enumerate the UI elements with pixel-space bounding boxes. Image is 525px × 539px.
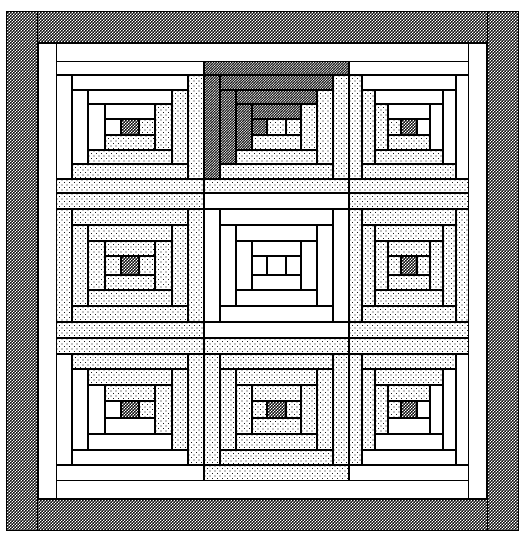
block-bottom-left-log-top-1 (72, 354, 188, 370)
block-bottom-right-log-top-2 (375, 369, 443, 385)
block-center-log-bottom-1 (220, 306, 333, 322)
block-center-log-bottom-3 (252, 275, 302, 291)
block-top-right-log-left-3 (388, 119, 401, 136)
border-binding-top (6, 11, 519, 43)
block-bottom-right-log-right-2 (430, 385, 443, 434)
block-middle-left-log-bottom-0 (56, 322, 204, 338)
block-bottom-center-log-bottom-1 (220, 450, 333, 466)
block-bottom-center-log-right-0 (333, 354, 349, 466)
border-binding-right (487, 11, 519, 531)
block-bottom-left-center-square (121, 401, 140, 419)
block-middle-left-log-left-2 (88, 241, 104, 291)
block-middle-left-log-left-1 (72, 225, 88, 307)
block-bottom-right-log-left-2 (375, 385, 388, 434)
block-bottom-center (204, 338, 349, 481)
block-center-log-left-0 (204, 209, 220, 322)
block-middle-left-log-right-0 (188, 209, 204, 322)
block-bottom-right-log-left-1 (362, 369, 375, 449)
block-top-left-log-left-1 (72, 90, 88, 164)
block-top-left (56, 61, 204, 193)
block-top-left-center-square (121, 119, 140, 136)
block-bottom-right-log-top-0 (349, 338, 469, 354)
border-binding-left (6, 11, 38, 531)
block-top-left-log-left-2 (88, 104, 104, 149)
block-bottom-left-log-left-3 (105, 401, 121, 419)
block-top-center-log-top-0 (204, 61, 349, 75)
block-top-right-log-top-0 (349, 61, 469, 75)
block-top-center-log-bottom-2 (236, 150, 318, 164)
block-bottom-left-log-top-2 (88, 369, 171, 385)
block-top-left-log-right-1 (172, 90, 188, 164)
block-bottom-center-log-right-2 (301, 385, 317, 434)
block-top-right (349, 61, 469, 193)
block-top-center-log-right-0 (333, 75, 349, 178)
block-top-left-log-top-2 (88, 90, 171, 104)
block-top-center-log-bottom-0 (204, 179, 349, 193)
block-top-left-log-top-3 (105, 104, 156, 118)
block-top-right-log-left-2 (375, 104, 388, 149)
block-top-left-log-left-3 (105, 119, 121, 136)
block-center-log-left-1 (220, 225, 236, 307)
block-bottom-center-log-bottom-0 (204, 465, 349, 481)
block-bottom-center-log-left-3 (252, 401, 268, 419)
border-sashing-top (38, 43, 487, 62)
block-top-right-log-top-1 (362, 75, 456, 89)
block-middle-left-log-bottom-3 (105, 275, 156, 291)
border-sashing-left (38, 43, 57, 499)
block-center-center-square (267, 256, 285, 274)
block-middle-right-log-top-2 (375, 225, 443, 241)
block-middle-right-center-square (401, 256, 416, 274)
block-center-log-bottom-2 (236, 290, 318, 306)
block-bottom-right-log-right-1 (443, 369, 456, 449)
block-middle-left-log-right-1 (172, 225, 188, 307)
block-bottom-center-log-top-3 (252, 385, 302, 401)
block-bottom-right-log-bottom-1 (362, 450, 456, 466)
block-center-log-top-3 (252, 241, 302, 257)
block-center-log-left-2 (236, 241, 252, 291)
block-top-right-log-right-3 (417, 119, 430, 136)
block-middle-right (349, 193, 469, 338)
block-bottom-center-log-left-2 (236, 385, 252, 434)
block-bottom-left-log-bottom-0 (56, 465, 204, 481)
block-bottom-left-log-right-0 (188, 354, 204, 466)
block-middle-right-log-top-0 (349, 193, 469, 209)
block-bottom-center-log-top-1 (220, 354, 333, 370)
block-top-left-log-right-2 (155, 104, 171, 149)
block-top-left-log-top-0 (56, 61, 204, 75)
block-middle-right-log-left-2 (375, 241, 388, 291)
block-bottom-right-center-square (401, 401, 416, 419)
block-middle-left-log-bottom-2 (88, 290, 171, 306)
block-top-center-log-right-3 (286, 119, 302, 136)
block-top-center-center-square (267, 119, 285, 136)
block-middle-right-log-bottom-1 (362, 306, 456, 322)
block-middle-left-log-top-1 (72, 209, 188, 225)
block-middle-right-log-left-0 (349, 209, 362, 322)
block-bottom-right-log-left-3 (388, 401, 401, 419)
block-top-center-log-right-1 (317, 90, 333, 164)
block-bottom-center-log-bottom-3 (252, 418, 302, 434)
block-top-right-log-left-0 (349, 75, 362, 178)
block-center-log-right-0 (333, 209, 349, 322)
block-top-left-log-bottom-0 (56, 179, 204, 193)
block-top-center-log-right-2 (301, 104, 317, 149)
block-bottom-right-log-bottom-2 (375, 434, 443, 450)
block-center-log-top-2 (236, 225, 318, 241)
block-bottom-center-log-top-2 (236, 369, 318, 385)
block-bottom-center-center-square (267, 401, 285, 419)
block-bottom-right-log-bottom-3 (388, 418, 429, 434)
block-top-right-log-bottom-0 (349, 179, 469, 193)
block-middle-left-log-left-0 (56, 209, 72, 322)
block-bottom-left-log-bottom-1 (72, 450, 188, 466)
block-top-right-log-bottom-2 (375, 150, 443, 164)
block-top-center-log-left-2 (236, 104, 252, 149)
block-middle-right-log-top-3 (388, 241, 429, 257)
block-bottom-center-log-right-3 (286, 401, 302, 419)
block-middle-right-log-right-2 (430, 241, 443, 291)
block-top-left-log-bottom-3 (105, 135, 156, 149)
block-middle-left-log-top-2 (88, 225, 171, 241)
block-bottom-right-log-top-3 (388, 385, 429, 401)
block-top-left-log-right-3 (139, 119, 155, 136)
block-middle-left-log-top-0 (56, 193, 204, 209)
block-center-log-right-1 (317, 225, 333, 307)
block-center-log-bottom-0 (204, 322, 349, 338)
